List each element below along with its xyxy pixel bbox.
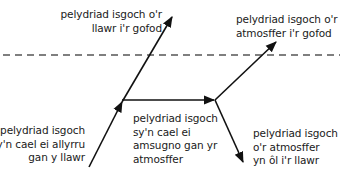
label-atmosphere-to-space: pelydriad isgoch o'r atmosffer i'r gofod bbox=[236, 13, 337, 40]
atmosphere-to-space-arrow bbox=[215, 42, 276, 100]
label-emitted-by-ground: pelydriad isgoch sy'n cael ei allyrru ga… bbox=[0, 124, 85, 165]
ground-emission-arrow bbox=[89, 102, 122, 167]
label-absorbed-by-atmosphere: pelydriad isgoch sy'n cael ei amsugno ga… bbox=[133, 112, 218, 166]
back-radiation-arrow bbox=[215, 100, 243, 162]
label-ground-to-space: pelydriad isgoch o'r llawr i'r gofod bbox=[61, 8, 162, 35]
label-back-radiation: pelydriad isgoch o'r atmosffer yn ôl i'r… bbox=[253, 127, 338, 168]
infrared-energy-flow-diagram: pelydriad isgoch o'r llawr i'r gofod pel… bbox=[0, 0, 341, 176]
